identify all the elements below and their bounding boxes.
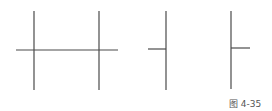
- panel-right-stub: [231, 11, 250, 89]
- panel-crossbar: [16, 11, 118, 90]
- panel-left-stub: [148, 11, 166, 90]
- figure-caption: 图 4-35: [229, 97, 261, 110]
- line-diagram: [0, 0, 272, 111]
